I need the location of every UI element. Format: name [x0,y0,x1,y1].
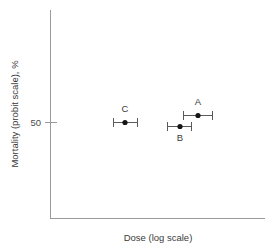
scatter-plot-with-error-bars: 50 Mortality (probit scale), % Dose (log… [0,0,277,248]
data-point-group-b: B [167,122,192,143]
y-tick-label-50: 50 [30,117,41,128]
data-marker-b [177,124,182,129]
data-point-group-c: C [113,103,138,127]
data-label-b: B [177,132,183,143]
data-label-c: C [122,103,129,114]
data-marker-c [122,120,127,125]
chart-figure: 50 Mortality (probit scale), % Dose (log… [0,0,277,248]
y-axis-title: Mortality (probit scale), % [9,60,20,168]
data-marker-a [195,113,200,118]
x-axis-title: Dose (log scale) [124,232,193,243]
data-point-group-a: A [183,96,213,120]
data-label-a: A [195,96,202,107]
